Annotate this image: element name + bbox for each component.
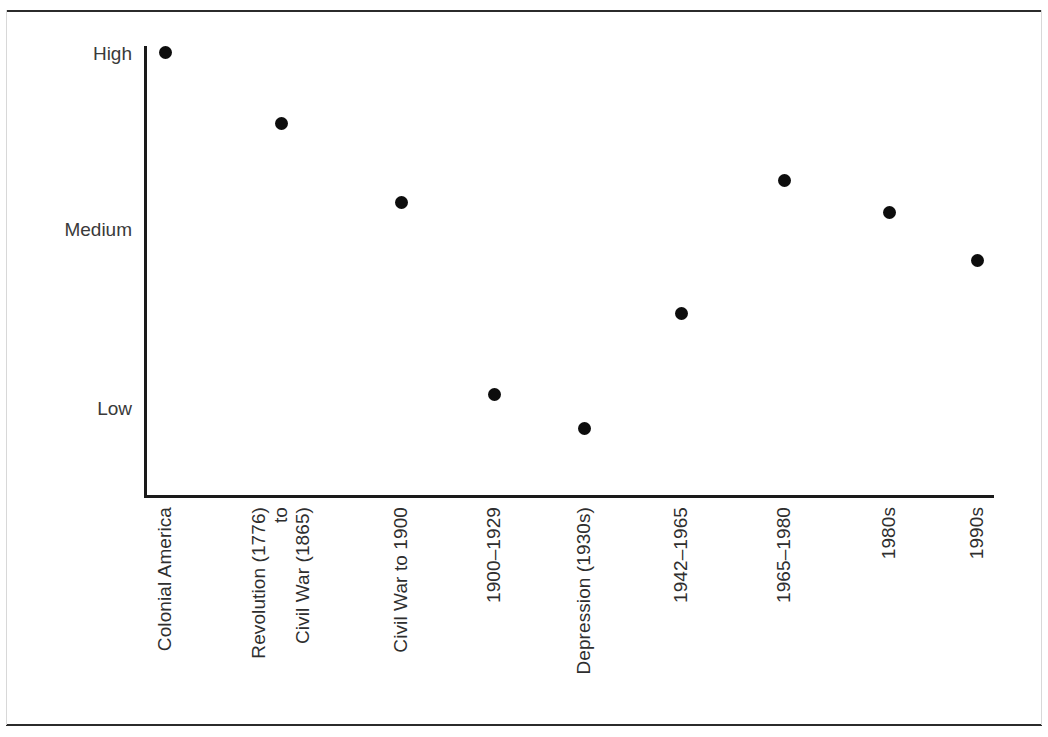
data-point [275, 117, 288, 130]
x-category-label-line: Colonial America [155, 507, 175, 651]
figure-left-border [6, 10, 7, 725]
figure-right-border [1041, 10, 1042, 725]
data-point [675, 307, 688, 320]
x-category-label: Colonial America [154, 507, 176, 687]
data-point [159, 46, 172, 59]
data-point [395, 196, 408, 209]
figure-top-rule [6, 10, 1042, 12]
x-category-label: 1980s [878, 507, 900, 687]
x-category-label-line: Civil War (1865) [293, 507, 313, 644]
x-category-label: Revolution (1776)toCivil War (1865) [248, 507, 314, 687]
x-category-label: Civil War to 1900 [390, 507, 412, 687]
x-category-label: 1942–1965 [670, 507, 692, 687]
x-category-label: 1965–1980 [773, 507, 795, 687]
data-point [971, 254, 984, 267]
y-tick-label: High [12, 44, 132, 63]
x-category-label-line: 1965–1980 [774, 507, 794, 603]
x-category-label-line: Depression (1930s) [574, 507, 594, 675]
x-category-label-line: 1942–1965 [671, 507, 691, 603]
figure-container: HighMediumLow Colonial AmericaRevolution… [0, 0, 1048, 737]
x-axis-line [144, 495, 994, 498]
x-category-label-line: Civil War to 1900 [391, 507, 411, 653]
x-category-label: Depression (1930s) [573, 507, 595, 687]
figure-bottom-rule [6, 724, 1042, 726]
x-category-label-line: 1980s [879, 507, 899, 559]
x-category-label: 1990s [966, 507, 988, 687]
data-point [488, 388, 501, 401]
data-point [883, 206, 896, 219]
y-axis-line [144, 46, 147, 498]
y-tick-label: Medium [12, 220, 132, 239]
data-point [778, 174, 791, 187]
x-category-label-line: to [271, 507, 291, 523]
x-category-label-line: 1990s [967, 507, 987, 559]
data-point [578, 422, 591, 435]
x-category-label: 1900–1929 [483, 507, 505, 687]
x-category-label-line: Revolution (1776) [249, 507, 269, 659]
y-tick-label: Low [12, 399, 132, 418]
x-category-label-line: 1900–1929 [484, 507, 504, 603]
